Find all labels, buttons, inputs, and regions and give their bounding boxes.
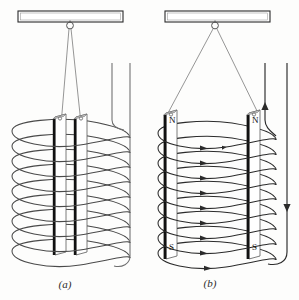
bar-magnet-b-right [247, 110, 260, 259]
physics-figure: N N S S (a) (b) [0, 0, 299, 300]
panel-b [158, 11, 291, 271]
support-bar-b [165, 11, 270, 22]
bar-magnets-b [164, 110, 260, 259]
pole-label-north-left: N [169, 116, 176, 125]
current-up-arrow [261, 102, 268, 110]
lead-wires-a [112, 63, 130, 267]
bar-magnet-b-left [164, 110, 177, 259]
caption-a: (a) [45, 278, 85, 290]
lead-wires-b [265, 63, 287, 265]
bar-magnets-a [53, 114, 87, 255]
lead-wire-arrowheads [261, 102, 290, 212]
suspension-threads-a [62, 29, 81, 119]
bar-magnet-a-left [53, 114, 66, 255]
pole-label-south-right: S [252, 243, 257, 252]
support-bar-a [18, 11, 123, 22]
pole-label-north-right: N [252, 116, 259, 125]
current-down-arrow [283, 204, 290, 212]
pole-label-south-left: S [169, 243, 174, 252]
panel-a [12, 11, 130, 267]
coil-a-back [12, 119, 130, 258]
caption-b: (b) [190, 277, 230, 289]
figure-drawing [0, 0, 299, 300]
suspension-threads-b [168, 29, 258, 113]
